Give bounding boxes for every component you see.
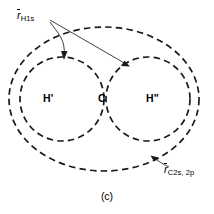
atom-label-hydrogen-double-prime: H"	[146, 92, 159, 104]
atom-label-carbon: C	[98, 92, 106, 104]
h1s-subscript: H1s	[21, 14, 35, 23]
c2s2p-subscript: C2s, 2p	[168, 168, 195, 177]
orbital-label-c2s2p: rC2s, 2p	[164, 163, 194, 177]
diagram-canvas	[0, 0, 214, 214]
figure-caption: (c)	[0, 190, 214, 202]
atom-label-hydrogen-prime: H'	[43, 92, 53, 104]
h1s-symbol: r	[17, 9, 21, 21]
c2s2p-symbol: r	[164, 163, 168, 175]
orbital-diagram-figure: rH1s rC2s, 2p H' C H" (c)	[0, 0, 214, 214]
hydrogen-prime-1s-circle-shape	[20, 57, 104, 141]
orbital-label-h1s: rH1s	[17, 9, 34, 23]
leader-arrowhead-h1s-left	[61, 51, 68, 60]
